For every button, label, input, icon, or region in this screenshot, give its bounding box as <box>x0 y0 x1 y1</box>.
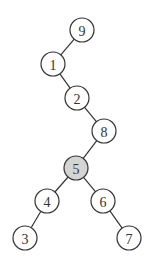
tree-node-3: 3 <box>13 226 37 250</box>
node-label: 8 <box>101 125 108 140</box>
tree-node-8: 8 <box>92 119 116 143</box>
tree-node-7: 7 <box>117 226 141 250</box>
node-label: 2 <box>74 92 81 107</box>
tree-node-1: 1 <box>41 52 65 76</box>
edge-1-2 <box>60 74 70 88</box>
edge-5-6 <box>84 177 96 191</box>
tree-node-5: 5 <box>64 156 88 180</box>
tree-node-9: 9 <box>70 18 94 42</box>
node-label: 7 <box>126 232 133 247</box>
edge-8-5 <box>83 141 97 159</box>
node-label: 3 <box>22 232 29 247</box>
tree-diagram: 912854637 <box>0 0 165 269</box>
edge-6-7 <box>110 211 122 228</box>
tree-node-6: 6 <box>91 189 115 213</box>
node-label: 1 <box>50 58 57 73</box>
edge-5-4 <box>55 177 68 192</box>
nodes: 912854637 <box>13 18 141 250</box>
edge-4-3 <box>31 211 41 227</box>
edge-2-8 <box>85 107 97 121</box>
node-label: 5 <box>73 162 80 177</box>
node-label: 4 <box>44 195 51 210</box>
tree-node-4: 4 <box>35 189 59 213</box>
node-label: 6 <box>100 195 107 210</box>
tree-node-2: 2 <box>65 86 89 110</box>
node-label: 9 <box>79 24 86 39</box>
edge-9-1 <box>61 39 74 55</box>
